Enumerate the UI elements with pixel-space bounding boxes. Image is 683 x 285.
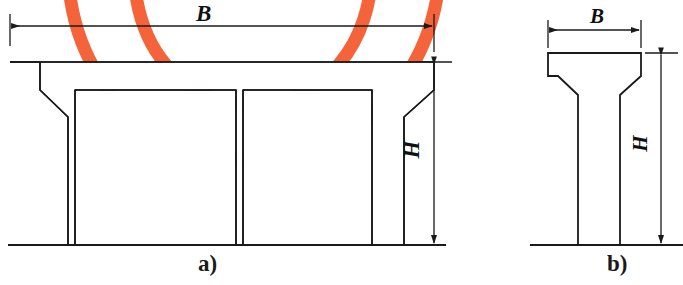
dimension-label-B-left: B bbox=[196, 2, 211, 25]
box-girder-cell-right bbox=[244, 91, 371, 244]
box-girder-cell-left bbox=[76, 91, 235, 244]
panel-b-t-beam bbox=[530, 20, 683, 245]
dimension-label-H-right: H bbox=[630, 135, 651, 151]
panel-caption-a: a) bbox=[198, 252, 217, 275]
figure-container: B B H H a) b) bbox=[0, 0, 683, 285]
panel-caption-b: b) bbox=[607, 252, 627, 275]
panel-a-box-girder bbox=[8, 14, 452, 245]
dimension-label-B-right: B bbox=[590, 6, 604, 27]
dimension-label-H-left: H bbox=[400, 141, 423, 159]
technical-drawing-svg bbox=[0, 0, 683, 285]
